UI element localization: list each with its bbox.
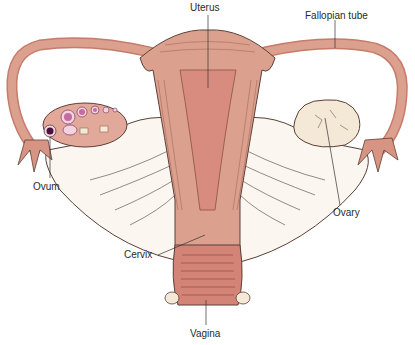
ovary-right xyxy=(294,100,360,147)
label-ovum: Ovum xyxy=(33,181,60,192)
label-ovary: Ovary xyxy=(333,207,360,218)
anatomy-illustration xyxy=(0,0,415,345)
reproductive-system-diagram: Uterus Fallopian tube Ovum Ovary Cervix … xyxy=(0,0,415,345)
label-uterus: Uterus xyxy=(190,2,219,13)
label-vagina: Vagina xyxy=(190,328,220,339)
vagina xyxy=(173,245,242,305)
label-cervix: Cervix xyxy=(124,249,152,260)
fimbriae-left xyxy=(18,140,52,172)
label-fallopian-tube: Fallopian tube xyxy=(305,10,368,21)
